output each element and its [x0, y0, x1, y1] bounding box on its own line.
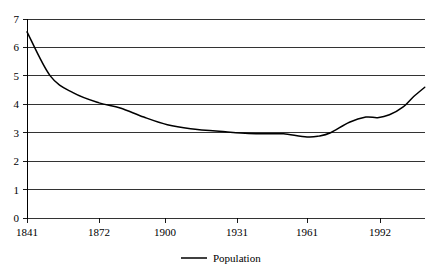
x-tick-label-1992: 1992	[369, 226, 391, 238]
x-axis-labels: 1841 1872 1900 1931 1961 1992	[16, 226, 391, 238]
y-axis-labels: 7 6 5 4 3 2 1 0	[14, 13, 20, 224]
x-tick-label-1900: 1900	[154, 226, 177, 238]
chart-legend: Population	[181, 252, 261, 264]
y-tick-label-3: 3	[14, 127, 20, 139]
legend-label-population: Population	[213, 252, 261, 264]
y-tick-label-1: 1	[14, 184, 20, 196]
x-tick-label-1931: 1931	[226, 226, 248, 238]
population-line-chart: 7 6 5 4 3 2 1 0 1841 1872 1900 1931 1961…	[0, 0, 439, 273]
y-tick-label-5: 5	[14, 70, 20, 82]
x-tick-label-1961: 1961	[296, 226, 318, 238]
x-axis-ticks	[27, 218, 380, 223]
y-tick-label-2: 2	[14, 155, 20, 167]
y-tick-label-7: 7	[14, 13, 20, 25]
y-tick-label-0: 0	[14, 212, 20, 224]
gridlines	[27, 19, 425, 218]
y-axis-ticks	[23, 19, 27, 218]
x-tick-label-1841: 1841	[16, 226, 38, 238]
chart-canvas: 7 6 5 4 3 2 1 0 1841 1872 1900 1931 1961…	[0, 0, 439, 273]
x-tick-label-1872: 1872	[88, 226, 110, 238]
y-tick-label-6: 6	[14, 41, 20, 53]
y-tick-label-4: 4	[14, 98, 20, 110]
